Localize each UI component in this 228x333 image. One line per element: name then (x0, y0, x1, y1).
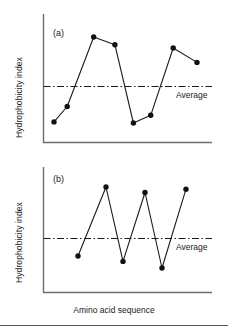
data-point (103, 184, 108, 189)
data-point (131, 120, 136, 125)
plot-area-a (0, 0, 228, 155)
data-markers-a (51, 34, 199, 125)
data-point (142, 190, 147, 195)
data-point (194, 60, 199, 65)
data-point (51, 119, 56, 124)
data-line-b (78, 187, 186, 268)
data-point (171, 45, 176, 50)
data-point (183, 187, 188, 192)
plot-area-b (0, 150, 228, 305)
x-axis-label: Amino acid sequence (0, 305, 228, 315)
hydrophobicity-figure: Hydrophobicity index (a) Average Hydroph… (0, 0, 228, 333)
data-point (159, 265, 164, 270)
data-point (91, 34, 96, 39)
data-point (120, 259, 125, 264)
data-point (148, 113, 153, 118)
data-point (65, 104, 70, 109)
data-point (75, 253, 80, 258)
data-line-a (54, 37, 197, 123)
data-point (112, 42, 117, 47)
data-markers-b (75, 184, 188, 270)
chart-panel-a: Hydrophobicity index (a) Average (0, 0, 228, 155)
axis-frame-b (44, 167, 213, 293)
axis-frame-a (44, 14, 213, 143)
bottom-divider (0, 325, 228, 326)
chart-panel-b: Hydrophobicity index (b) Average (0, 150, 228, 305)
